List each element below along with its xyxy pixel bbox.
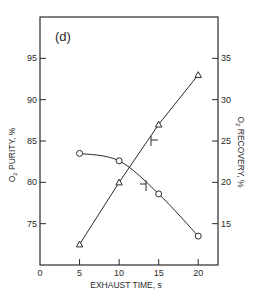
series-layer bbox=[76, 72, 201, 247]
recovery-point-triangle-marker bbox=[116, 179, 122, 185]
y-right-axis-label: O2 RECOVERY, % bbox=[235, 116, 246, 188]
y-left-axis-label: O2 PURITY, % bbox=[7, 127, 18, 182]
x-tick-label: 5 bbox=[77, 268, 82, 278]
y-left-axis-ticks: 7580859095 bbox=[27, 53, 46, 228]
recovery-point-triangle-marker bbox=[195, 72, 201, 78]
y-tick-label: 85 bbox=[27, 136, 37, 146]
x-tick-label: 15 bbox=[154, 268, 164, 278]
chart: 05101520 7580859095 1520253035 (d) EXHAU… bbox=[0, 0, 258, 303]
recovery-point-triangle-marker bbox=[76, 241, 82, 247]
y2-tick-label: 30 bbox=[221, 95, 231, 105]
x-tick-label: 0 bbox=[37, 268, 42, 278]
y2-tick-label: 20 bbox=[221, 177, 231, 187]
y-right-axis-ticks: 1520253035 bbox=[212, 53, 231, 228]
purity-point-circle-marker bbox=[77, 150, 83, 156]
purity-line bbox=[80, 153, 199, 236]
y-tick-label: 75 bbox=[27, 219, 37, 229]
panel-label: (d) bbox=[55, 29, 71, 44]
purity-point-circle-marker bbox=[195, 233, 201, 239]
x-tick-label: 10 bbox=[114, 268, 124, 278]
x-axis-ticks: 05101520 bbox=[37, 259, 203, 278]
x-axis-label: EXHAUST TIME, s bbox=[90, 280, 161, 290]
y2-tick-label: 35 bbox=[221, 53, 231, 63]
recovery-line bbox=[80, 75, 199, 244]
y-tick-label: 90 bbox=[27, 95, 37, 105]
y-tick-label: 95 bbox=[27, 53, 37, 63]
y2-tick-label: 25 bbox=[221, 136, 231, 146]
purity-point-circle-marker bbox=[116, 158, 122, 164]
x-tick-label: 20 bbox=[193, 268, 203, 278]
y2-tick-label: 15 bbox=[221, 219, 231, 229]
purity-point-circle-marker bbox=[156, 191, 162, 197]
y-tick-label: 80 bbox=[27, 177, 37, 187]
recovery-axis-arrow-marker bbox=[151, 136, 158, 146]
